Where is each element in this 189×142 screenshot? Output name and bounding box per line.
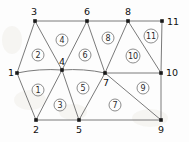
mesh-node-11 <box>160 19 164 23</box>
mesh-edge-11-10 <box>161 21 162 73</box>
node-label-10: 10 <box>166 67 178 78</box>
mesh-edge-3-4 <box>35 21 62 70</box>
mesh-edge-4-7 <box>62 70 105 73</box>
mesh-edge-8-10 <box>128 21 161 73</box>
mesh-edge-1-4 <box>17 70 62 73</box>
mesh-element-1: 1 <box>32 84 44 96</box>
mesh-node-10 <box>159 71 163 75</box>
mesh-element-8: 8 <box>102 32 114 44</box>
element-label-7: 7 <box>112 101 117 110</box>
mesh-node-9 <box>159 118 163 122</box>
mesh-edge-6-7 <box>87 21 105 73</box>
mesh-element-11: 11 <box>144 29 158 43</box>
mesh-element-6: 6 <box>79 49 91 61</box>
node-label-7: 7 <box>103 77 109 88</box>
mesh-figure: 1234567891011 1234567891011 <box>0 0 189 142</box>
mesh-element-2: 2 <box>32 49 44 61</box>
mesh-node-7 <box>103 71 107 75</box>
element-label-9: 9 <box>140 84 145 93</box>
mesh-diagram: 1234567891011 1234567891011 <box>0 0 189 142</box>
mesh-node-2 <box>34 118 38 122</box>
mesh-node-8 <box>126 19 130 23</box>
node-label-6: 6 <box>84 6 90 17</box>
element-label-11: 11 <box>146 32 156 41</box>
mesh-element-4: 4 <box>56 34 68 46</box>
node-label-9: 9 <box>158 124 164 135</box>
node-label-2: 2 <box>33 124 39 135</box>
node-label-3: 3 <box>31 6 37 17</box>
mesh-element-5: 5 <box>77 82 89 94</box>
element-label-10: 10 <box>128 52 138 61</box>
node-label-4: 4 <box>59 56 65 67</box>
node-label-1: 1 <box>8 67 14 78</box>
mesh-edge-4-6 <box>62 21 87 70</box>
mesh-element-10: 10 <box>126 49 140 63</box>
mesh-node-4 <box>60 68 64 72</box>
paper-texture-layer <box>2 26 168 127</box>
mesh-edge-7-8 <box>105 21 128 73</box>
mesh-node-3 <box>33 19 37 23</box>
mesh-edge-7-5 <box>79 73 105 120</box>
element-label-4: 4 <box>59 36 64 45</box>
element-label-5: 5 <box>80 84 85 93</box>
node-label-5: 5 <box>76 124 82 135</box>
node-label-8: 8 <box>125 6 131 17</box>
mesh-node-5 <box>77 118 81 122</box>
element-label-3: 3 <box>57 101 62 110</box>
node-label-11: 11 <box>167 16 179 27</box>
mesh-node-1 <box>15 71 19 75</box>
mesh-edge-7-9 <box>105 73 161 120</box>
element-label-1: 1 <box>35 86 40 95</box>
mesh-node-6 <box>85 19 89 23</box>
mesh-element-7: 7 <box>109 99 121 111</box>
element-label-6: 6 <box>82 51 87 60</box>
element-label-2: 2 <box>35 51 40 60</box>
mesh-element-3: 3 <box>54 99 66 111</box>
element-label-8: 8 <box>105 34 110 43</box>
mesh-element-9: 9 <box>137 82 149 94</box>
